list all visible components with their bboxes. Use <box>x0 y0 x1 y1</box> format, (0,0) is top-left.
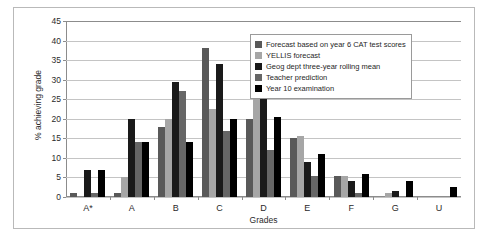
bar <box>172 82 179 197</box>
bar-group <box>417 21 461 197</box>
bar <box>385 193 392 197</box>
bar <box>267 150 274 197</box>
x-axis-title: Grades <box>66 215 461 225</box>
legend: Forecast based on year 6 CAT test scores… <box>250 34 412 99</box>
bar <box>91 193 98 197</box>
legend-label: YELLIS forecast <box>266 52 320 60</box>
bar <box>355 193 362 197</box>
y-tick-label: 10 <box>52 153 61 163</box>
legend-label: Year 10 examination <box>266 85 334 93</box>
bar <box>311 176 318 198</box>
bar <box>114 193 121 197</box>
x-tick-label: C <box>216 203 223 213</box>
figure: % achieving grade 051015202530354045 A*A… <box>0 0 488 250</box>
x-tick-mark <box>285 197 286 200</box>
x-tick-mark <box>198 197 199 200</box>
legend-swatch-icon <box>255 85 262 92</box>
x-tick-label: F <box>349 203 355 213</box>
bar-group <box>66 21 110 197</box>
x-tick-mark <box>417 197 418 200</box>
legend-label: Geog dept three-year rolling mean <box>266 63 380 71</box>
bar-group <box>198 21 242 197</box>
legend-label: Teacher prediction <box>266 74 327 82</box>
bar <box>158 127 165 197</box>
bar <box>98 170 105 197</box>
bar <box>260 89 267 197</box>
bar <box>230 119 237 197</box>
y-tick-label: 5 <box>56 172 61 182</box>
bar-group <box>110 21 154 197</box>
legend-item: Teacher prediction <box>255 72 406 83</box>
legend-item: Year 10 examination <box>255 83 406 94</box>
bar <box>128 119 135 197</box>
y-tick-label: 35 <box>52 55 61 65</box>
legend-swatch-icon <box>255 41 262 48</box>
x-tick-label: B <box>173 203 179 213</box>
bar <box>216 64 223 197</box>
bar <box>186 142 193 197</box>
bar <box>223 131 230 197</box>
y-tick-label: 25 <box>52 94 61 104</box>
legend-item: Geog dept three-year rolling mean <box>255 61 406 72</box>
y-tick-mark <box>63 197 66 198</box>
y-tick-label: 0 <box>56 192 61 202</box>
bar <box>246 119 253 197</box>
bar <box>202 48 209 197</box>
x-tick-mark <box>329 197 330 200</box>
legend-swatch-icon <box>255 52 262 59</box>
x-tick-label: U <box>436 203 443 213</box>
bar <box>334 176 341 198</box>
y-tick-label: 20 <box>52 114 61 124</box>
x-tick-label: G <box>392 203 399 213</box>
bar <box>450 187 457 197</box>
bar <box>392 191 399 197</box>
x-tick-label: D <box>260 203 267 213</box>
y-tick-label: 40 <box>52 36 61 46</box>
bar <box>121 177 128 197</box>
x-tick-mark <box>110 197 111 200</box>
x-tick-mark <box>154 197 155 200</box>
y-tick-label: 15 <box>52 133 61 143</box>
bar <box>318 154 325 197</box>
bar <box>341 176 348 198</box>
x-tick-label: E <box>304 203 310 213</box>
gridline <box>66 197 461 198</box>
figure-caption <box>14 239 454 249</box>
legend-swatch-icon <box>255 74 262 81</box>
bar <box>274 117 281 197</box>
bar <box>253 99 260 197</box>
y-tick-label: 30 <box>52 75 61 85</box>
x-tick-label: A* <box>83 203 93 213</box>
chart-frame: % achieving grade 051015202530354045 A*A… <box>13 7 475 229</box>
x-tick-mark <box>242 197 243 200</box>
bar <box>70 193 77 197</box>
y-tick-label: 45 <box>52 16 61 26</box>
x-tick-mark <box>373 197 374 200</box>
bar <box>142 142 149 197</box>
bar <box>135 142 142 197</box>
bar <box>348 181 355 197</box>
bar <box>304 162 311 197</box>
legend-item: YELLIS forecast <box>255 50 406 61</box>
bar <box>297 136 304 197</box>
bar <box>209 109 216 197</box>
bar <box>84 170 91 197</box>
bar <box>362 174 369 197</box>
x-tick-label: A <box>129 203 135 213</box>
legend-swatch-icon <box>255 63 262 70</box>
legend-label: Forecast based on year 6 CAT test scores <box>266 41 406 49</box>
bar <box>290 138 297 197</box>
y-axis-title: % achieving grade <box>33 35 43 175</box>
bar <box>179 91 186 197</box>
bar-group <box>154 21 198 197</box>
bar <box>165 119 172 197</box>
bar <box>406 181 413 197</box>
legend-item: Forecast based on year 6 CAT test scores <box>255 39 406 50</box>
